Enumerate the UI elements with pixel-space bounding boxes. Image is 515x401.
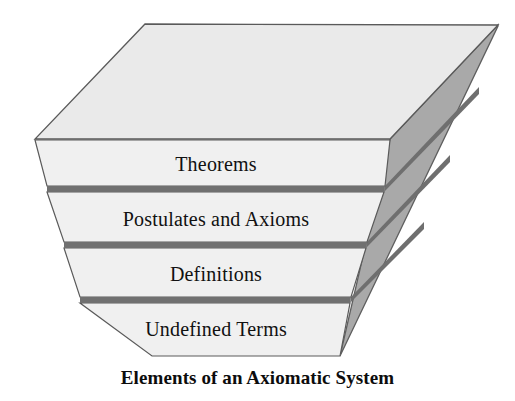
figure-root: Theorems Postulates and Axioms Definitio… [0,0,515,401]
layer-label-theorems: Theorems [175,153,257,175]
layer-label-undefined-terms: Undefined Terms [145,318,287,340]
axiomatic-system-diagram: Theorems Postulates and Axioms Definitio… [0,0,515,401]
layer-divider-3 [80,297,351,303]
layer-label-definitions: Definitions [170,263,262,285]
layer-divider-1 [47,186,385,192]
layer-label-postulates-and-axioms: Postulates and Axioms [123,208,309,230]
figure-caption: Elements of an Axiomatic System [0,367,515,389]
layer-divider-2 [64,242,367,248]
